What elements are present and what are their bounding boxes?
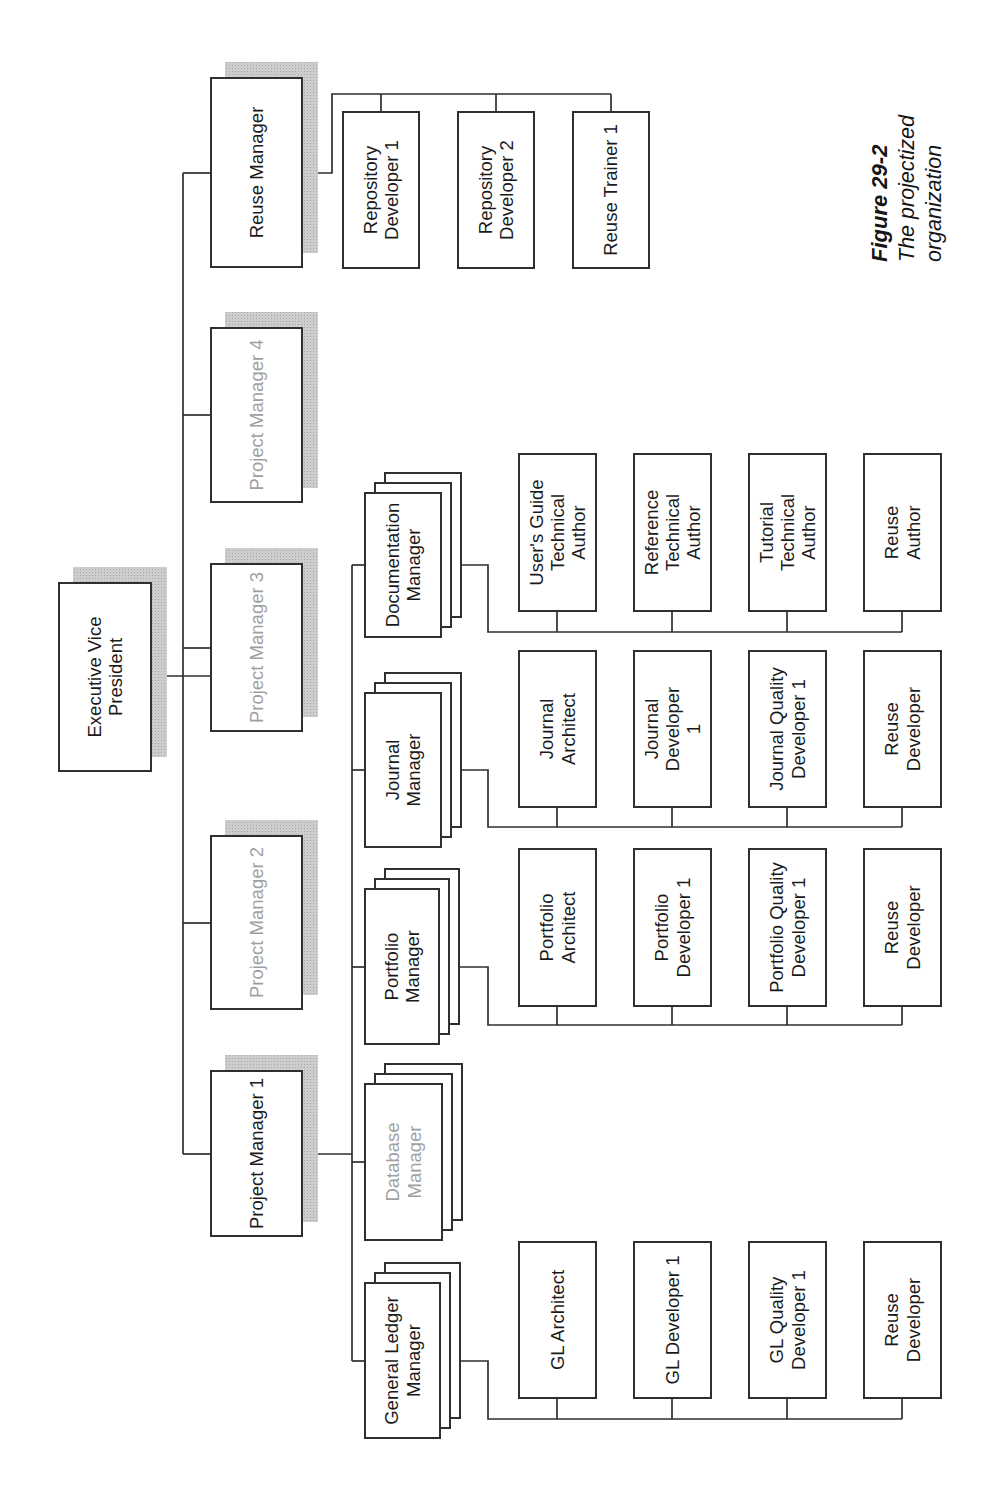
node-portfolio-architect: Portfolio Architect <box>518 848 597 1007</box>
node-journal-manager: Journal Manager <box>364 692 442 848</box>
node-gl-architect: GL Architect <box>518 1241 597 1399</box>
node-portfolio-quality-developer-1: Portfolio Quality Developer 1 <box>748 848 827 1007</box>
node-journal-quality-developer-1: Journal Quality Developer 1 <box>748 650 827 808</box>
node-project-manager-2: Project Manager 2 <box>210 835 303 1010</box>
node-journal-reuse-developer: Reuse Developer <box>863 650 942 808</box>
node-project-manager-4: Project Manager 4 <box>210 327 303 503</box>
node-repository-developer-2: Repository Developer 2 <box>457 111 535 269</box>
node-reuse-manager: Reuse Manager <box>210 77 303 268</box>
node-portfolio-reuse-developer: Reuse Developer <box>863 848 942 1007</box>
node-executive-vice-president: Executive Vice President <box>58 582 152 772</box>
node-database-manager: Database Manager <box>364 1083 443 1241</box>
figure-caption-subtitle: The projectized organization <box>894 80 949 262</box>
figure-caption-title: Figure 29-2 <box>866 80 894 262</box>
node-gl-reuse-developer: Reuse Developer <box>863 1241 942 1399</box>
node-journal-architect: Journal Architect <box>518 650 597 808</box>
node-reuse-author: Reuse Author <box>863 453 942 612</box>
org-chart-figure: Executive Vice PresidentProject Manager … <box>0 0 1001 1500</box>
node-portfolio-developer-1: Portfolio Developer 1 <box>633 848 712 1007</box>
node-users-guide-technical-author: User's Guide Technical Author <box>518 453 597 612</box>
node-gl-developer-1: GL Developer 1 <box>633 1241 712 1399</box>
node-documentation-manager: Documentation Manager <box>364 492 442 638</box>
node-gl-quality-developer-1: GL Quality Developer 1 <box>748 1241 827 1399</box>
node-journal-developer-1: Journal Developer 1 <box>633 650 712 808</box>
node-general-ledger-manager: General Ledger Manager <box>364 1282 441 1439</box>
node-portfolio-manager: Portfolio Manager <box>364 888 440 1045</box>
node-project-manager-1: Project Manager 1 <box>210 1070 303 1237</box>
node-project-manager-3: Project Manager 3 <box>210 563 303 732</box>
node-reference-technical-author: Reference Technical Author <box>633 453 712 612</box>
figure-caption: Figure 29-2 The projectized organization <box>866 80 949 262</box>
node-repository-developer-1: Repository Developer 1 <box>342 111 420 269</box>
org-chart-nodes-layer: Executive Vice PresidentProject Manager … <box>0 0 1001 1500</box>
node-tutorial-technical-author: Tutorial Technical Author <box>748 453 827 612</box>
node-reuse-trainer-1: Reuse Trainer 1 <box>572 111 650 269</box>
